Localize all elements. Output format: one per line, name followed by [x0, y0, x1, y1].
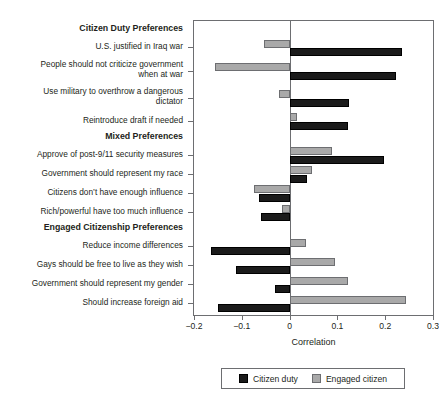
bar-citizen-duty [261, 213, 290, 221]
bar-citizen-duty [211, 247, 289, 255]
category-label: Citizens don’t have enough influence [47, 188, 183, 198]
legend-label-citizen-duty: Citizen duty [253, 374, 298, 384]
x-axis-tick-label: 0.1 [331, 321, 343, 331]
category-label: People should not criticize government w… [40, 60, 183, 79]
bar-engaged-citizen [254, 185, 289, 193]
x-axis-tick-label: −0.2 [186, 321, 203, 331]
category-label-column: Citizen Duty PreferencesU.S. justified i… [0, 20, 188, 316]
category-label: Government should represent my race [41, 169, 183, 179]
y-axis-tick [188, 193, 193, 194]
group-header-label: Citizen Duty Preferences [79, 24, 183, 34]
legend-label-engaged-citizen: Engaged citizen [326, 374, 387, 384]
legend-item-engaged-citizen: Engaged citizen [312, 374, 387, 384]
legend-swatch-citizen-duty [239, 374, 248, 383]
x-axis-tick-label: −0.1 [233, 321, 250, 331]
category-label: U.S. justified in Iraq war [95, 42, 183, 52]
category-label: Rich/powerful have too much influence [40, 207, 183, 217]
y-axis-tick [188, 71, 193, 72]
bar-citizen-duty [290, 122, 348, 130]
chart-legend: Citizen duty Engaged citizen [221, 368, 405, 389]
bar-citizen-duty [275, 285, 290, 293]
x-axis-tick-label: 0.2 [379, 321, 391, 331]
bar-engaged-citizen [279, 90, 290, 98]
plot-area [193, 20, 434, 316]
x-axis-tick [337, 316, 338, 320]
y-axis-tick [188, 174, 193, 175]
bar-engaged-citizen [290, 296, 406, 304]
x-axis-tick [385, 316, 386, 320]
bar-citizen-duty [236, 266, 290, 274]
group-header-label: Mixed Preferences [105, 132, 183, 142]
x-axis-tick-label: 0.3 [427, 321, 439, 331]
y-axis-tick [188, 47, 193, 48]
bar-engaged-citizen [290, 277, 349, 285]
bar-citizen-duty [290, 72, 396, 80]
x-axis-tick [433, 316, 434, 320]
bar-citizen-duty [259, 194, 290, 202]
legend-swatch-engaged-citizen [312, 374, 321, 383]
category-label: Reintroduce draft if needed [83, 116, 183, 126]
bar-citizen-duty [218, 304, 290, 312]
group-header-label: Engaged Citizenship Preferences [44, 223, 183, 233]
category-label: Reduce income differences [83, 241, 183, 251]
x-axis-tick [242, 316, 243, 320]
y-axis-tick [188, 98, 193, 99]
category-label: Approve of post-9/11 security measures [37, 150, 183, 160]
bar-citizen-duty [290, 99, 349, 107]
x-axis-tick [194, 316, 195, 320]
category-label: Gays should be free to live as they wish [37, 260, 183, 270]
legend-item-citizen-duty: Citizen duty [239, 374, 298, 384]
category-label: Use military to overthrow a dangerous di… [43, 87, 183, 106]
bar-engaged-citizen [290, 239, 306, 247]
category-label: Government should represent my gender [32, 279, 183, 289]
bar-citizen-duty [290, 175, 308, 183]
bar-engaged-citizen [264, 40, 290, 48]
bar-engaged-citizen [290, 166, 312, 174]
y-axis-tick [188, 265, 193, 266]
y-axis-tick [188, 121, 193, 122]
bar-citizen-duty [290, 156, 384, 164]
y-axis-tick [188, 212, 193, 213]
x-axis-tick-label: 0 [287, 321, 292, 331]
x-axis-tick [290, 316, 291, 320]
bar-engaged-citizen [215, 63, 290, 71]
y-axis-tick [188, 246, 193, 247]
category-label: Should increase foreign aid [82, 298, 183, 308]
bar-citizen-duty [290, 48, 403, 56]
bar-engaged-citizen [290, 113, 297, 121]
bar-engaged-citizen [290, 147, 333, 155]
bar-engaged-citizen [282, 205, 289, 213]
y-axis-tick [188, 284, 193, 285]
y-axis-tick [188, 303, 193, 304]
x-axis-title: Correlation [193, 337, 434, 347]
y-axis-tick [188, 155, 193, 156]
bar-engaged-citizen [290, 258, 335, 266]
